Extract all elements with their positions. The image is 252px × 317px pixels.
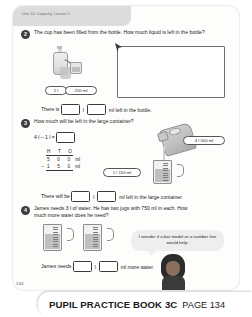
question-2-unit-ml: ml left in the bottle.	[107, 107, 153, 113]
question-2-working-box[interactable]	[117, 46, 225, 98]
footer-page-label: PAGE 134	[177, 300, 225, 310]
unit-lesson-label: Unit 14: Capacity, Lesson 5	[22, 12, 70, 16]
question-2: 2 The cup has been filled from the bottl…	[13, 28, 239, 118]
jug-two-illustration	[83, 224, 109, 252]
large-container-capacity-label: 4 l 500 ml	[183, 136, 225, 145]
jug-one-handle-icon	[67, 228, 74, 241]
question-2-text: The cup has been filled from the bottle.…	[34, 29, 224, 36]
footer-book-title: PUPIL PRACTICE BOOK 3C	[38, 299, 177, 310]
jug-one-illustration	[43, 224, 69, 252]
cup-water-level	[72, 67, 81, 72]
question-3-answer-box-litres[interactable]	[71, 191, 90, 202]
question-4-answer-box-ml[interactable]	[99, 261, 118, 272]
question-4-answer-lead: James needs	[41, 263, 71, 269]
unit-lesson-tab: Unit 14: Capacity, Lesson 5	[13, 6, 131, 26]
question-4-number: 4	[21, 206, 30, 215]
column-minus-sign: –	[42, 163, 45, 170]
column-subtrahend: 1 5 0	[42, 164, 73, 169]
question-4-unit-ml: ml more water.	[119, 264, 155, 270]
jug-two-handle-icon	[107, 228, 114, 241]
question-2-answer-box-litres[interactable]	[61, 104, 80, 115]
column-minuend-row: 5 0 0ml	[42, 156, 102, 163]
question-4-answer-box-litres[interactable]	[73, 261, 92, 272]
question-4-text: James needs 3 l of water. He has two jug…	[34, 205, 189, 219]
question-3-answer-line: There will be l ml left in the large con…	[41, 191, 184, 202]
column-subtrahend-unit: ml	[73, 164, 80, 169]
question-3-unit-litres: l	[92, 194, 96, 200]
worksheet-page: Unit 14: Capacity, Lesson 5 2 The cup ha…	[0, 0, 252, 317]
jug-one-icon	[43, 224, 62, 251]
question-2-answer-line: There is l ml left in the bottle.	[41, 104, 153, 115]
beaker-illustration	[153, 160, 179, 184]
column-minuend: 5 0 0	[42, 157, 73, 162]
column-subtraction: H T O 5 0 0ml –1 5 0ml	[42, 148, 102, 179]
question-3-number: 3	[21, 119, 30, 128]
column-headers: H T O	[42, 148, 102, 155]
question-3-answer-lead: There will be	[41, 193, 70, 199]
worksheet-sheet: Unit 14: Capacity, Lesson 5 2 The cup ha…	[13, 6, 239, 290]
column-answer-row[interactable]	[42, 171, 102, 179]
question-3-answer-box-ml[interactable]	[97, 191, 116, 202]
hint-speech-bubble: I wonder if a bar model or a number line…	[131, 230, 224, 251]
bottle-cup-illustration	[48, 46, 88, 76]
column-subtrahend-row: –1 5 0ml	[42, 163, 102, 170]
jug-two-icon	[83, 224, 102, 251]
question-4-answer-line: James needs l ml more water.	[41, 261, 156, 272]
question-4-unit-litres: l	[93, 264, 97, 270]
question-2-number: 2	[21, 30, 30, 39]
footer-band: PUPIL PRACTICE BOOK 3C PAGE 134	[38, 292, 252, 317]
bottle-capacity-label: 2 l	[45, 86, 67, 95]
question-3-equation: 4 l – 1 l =	[34, 134, 55, 140]
question-4: 4 James needs 3 l of water. He has two j…	[13, 204, 239, 290]
beaker-scale-icon	[163, 163, 168, 181]
question-2-answer-box-ml[interactable]	[87, 104, 106, 115]
question-3-equation-answer-box[interactable]	[56, 132, 75, 143]
cup-capacity-label: 250 ml	[65, 86, 97, 95]
beaker-handle-icon	[177, 164, 184, 177]
working-box-pointer-icon	[113, 42, 125, 54]
beaker-icon	[153, 160, 172, 184]
question-2-unit-litres: l	[81, 107, 85, 113]
cup-icon	[70, 62, 82, 74]
page-number: 134	[16, 281, 23, 286]
beaker-measure-label: 1 l 150 ml	[103, 168, 141, 177]
character-body	[162, 276, 185, 290]
character-illustration	[161, 254, 187, 290]
question-3-unit-ml: ml left in the large container.	[118, 194, 185, 200]
question-3: 3 How much will be left in the large con…	[13, 118, 239, 203]
column-minuend-unit: ml	[73, 157, 80, 162]
question-2-answer-lead: There is	[41, 106, 59, 112]
jug-two-scale-icon	[93, 227, 98, 245]
question-3-equation-line: 4 l – 1 l =	[34, 132, 75, 143]
jug-one-scale-icon	[53, 227, 58, 245]
character-face	[166, 261, 180, 276]
